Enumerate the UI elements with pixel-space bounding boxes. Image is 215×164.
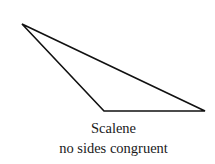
triangle-type-label: Scalene <box>6 121 215 136</box>
triangle-description: no sides congruent <box>6 141 215 156</box>
scalene-triangle <box>22 24 205 111</box>
